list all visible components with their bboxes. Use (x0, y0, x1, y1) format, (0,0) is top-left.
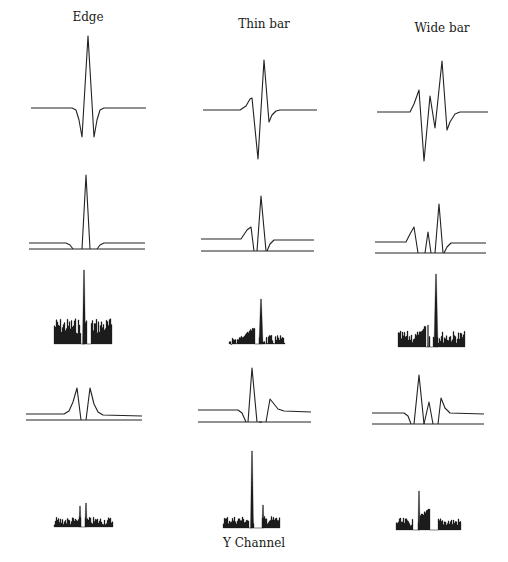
histogram-peak (418, 491, 420, 530)
response-curve-row2-edge-upper (29, 243, 73, 249)
response-curve-row2-thin-bar-spike (257, 196, 266, 251)
response-curve-row4-wide-bar-spike (414, 375, 424, 424)
histogram-peak (251, 451, 254, 528)
response-curve-row2-thin-bar-upper (201, 227, 254, 251)
response-curve-row4-thin-bar-spike (248, 368, 257, 422)
response-curve-row2-wide-bar-spike2 (435, 204, 443, 253)
response-curve-row4-thin-bar-upper2 (266, 399, 311, 422)
response-curve-row2-edge-upper2 (97, 243, 145, 249)
histogram-peak (79, 506, 81, 527)
histogram-row5-edge (54, 503, 113, 527)
response-curve-row4-wide-bar-upper2 (438, 398, 484, 424)
histogram-peak (262, 505, 264, 528)
response-curve-row2-thin-bar-upper2 (267, 240, 314, 251)
response-curve-row1-thin-bar (203, 60, 317, 159)
histogram-peak (83, 270, 86, 344)
histogram-row3-wide-bar (398, 274, 465, 347)
plot-canvas (0, 0, 508, 562)
histogram-peak (85, 503, 87, 527)
response-curve-row2-edge-spike (82, 175, 90, 249)
histogram-peak (434, 274, 438, 347)
response-curve-row2-wide-bar-spike (425, 232, 431, 253)
response-curve-row2-wide-bar-upper2 (444, 243, 486, 253)
response-curve-row1-edge (31, 36, 146, 137)
histogram-row3-edge (54, 270, 112, 344)
response-curve-row4-edge-upper (26, 388, 81, 420)
response-curve-row4-thin-bar-upper (198, 410, 246, 422)
histogram-row5-thin-bar (223, 451, 280, 528)
histogram-peak (428, 325, 429, 347)
response-curve-row4-wide-bar-spike2 (424, 402, 433, 424)
histogram-row3-thin-bar (229, 299, 285, 345)
histogram-row5-wide-bar (396, 491, 461, 530)
response-curve-row2-wide-bar-upper (375, 227, 418, 253)
histogram-peak (259, 299, 263, 344)
response-curve-row4-edge-upper2 (86, 388, 142, 420)
response-curve-row4-wide-bar-upper (372, 413, 411, 424)
response-curve-row1-wide-bar (377, 61, 488, 161)
figure-caption: Y Channel (223, 536, 285, 550)
